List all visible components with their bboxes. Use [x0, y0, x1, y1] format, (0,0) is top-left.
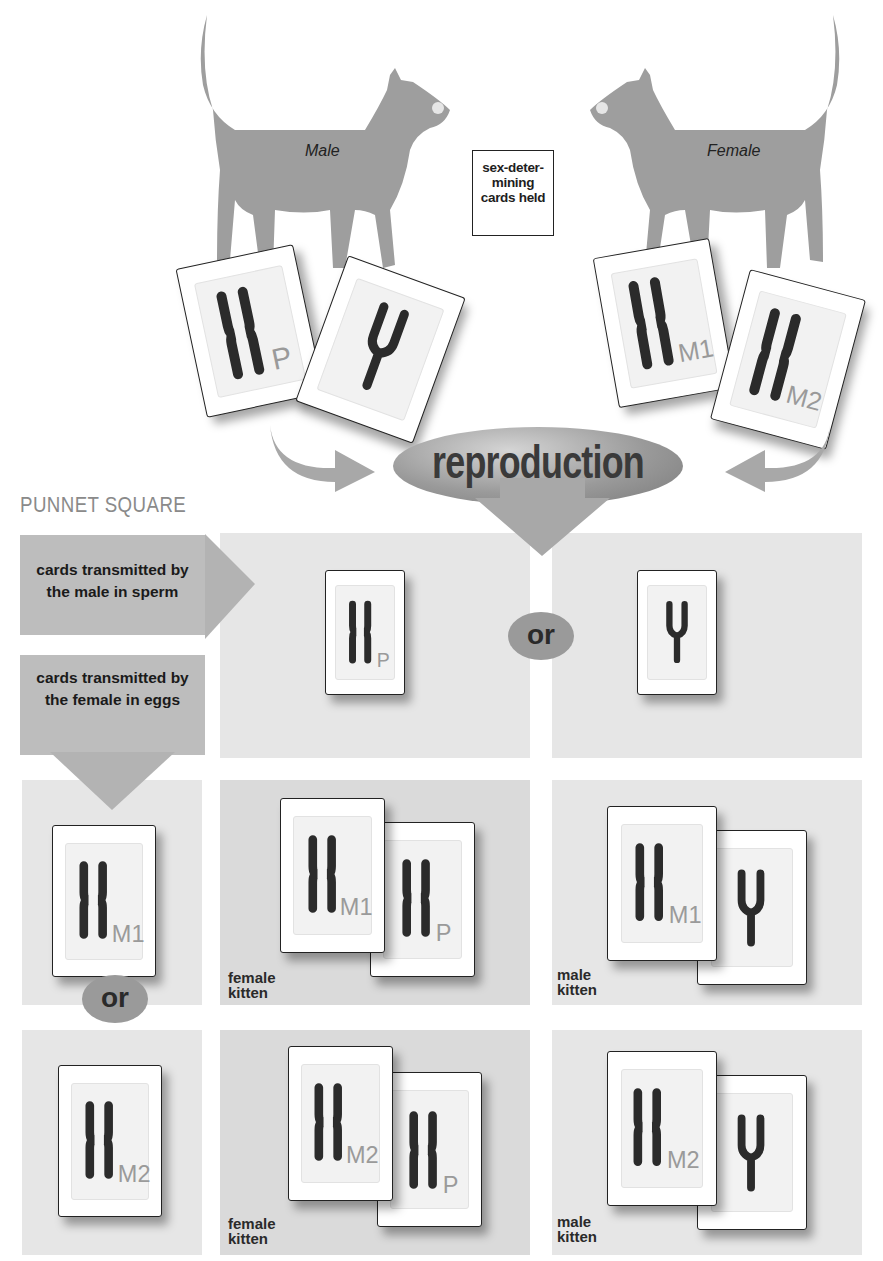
card-col-xp: P — [325, 570, 405, 695]
label-line: female — [228, 1216, 276, 1231]
card-col-y — [637, 570, 717, 695]
male-transmission-label: cards transmitted by the male in sperm — [20, 535, 205, 635]
svg-text:P: P — [269, 340, 295, 376]
kitten-label-1-1: male kitten — [557, 1214, 597, 1244]
male-label: Male — [305, 142, 340, 160]
svg-text:M1: M1 — [669, 902, 702, 928]
label-line: cards transmitted by — [20, 559, 205, 581]
legend-line: cards held — [473, 190, 553, 205]
card-result-0-1-xm1: M1 — [607, 806, 717, 961]
label-line: male — [557, 967, 597, 982]
arrow-male-icon — [265, 420, 395, 500]
svg-text:M1: M1 — [340, 894, 373, 920]
card-result-1-0-xm2: M2 — [288, 1046, 393, 1201]
kitten-label-1-0: female kitten — [228, 1216, 276, 1246]
svg-text:P: P — [436, 920, 452, 946]
legend-sex-determining-cards: sex-deter- mining cards held — [472, 150, 554, 236]
card-row-xm1: M1 — [52, 825, 156, 977]
svg-text:M1: M1 — [676, 333, 716, 367]
label-line: the male in sperm — [20, 581, 205, 603]
svg-text:M2: M2 — [346, 1142, 379, 1168]
card-row-xm2: M2 — [58, 1065, 162, 1217]
label-line: kitten — [228, 985, 276, 1000]
kitten-label-0-0: female kitten — [228, 970, 276, 1000]
legend-line: sex-deter- — [473, 160, 553, 175]
arrow-down-left-icon — [50, 752, 180, 812]
label-line: cards transmitted by — [20, 667, 205, 689]
svg-text:M2: M2 — [667, 1147, 700, 1173]
svg-text:M2: M2 — [783, 380, 825, 416]
legend-line: mining — [473, 175, 553, 190]
svg-text:P: P — [443, 1172, 459, 1198]
or-oval-columns: or — [508, 612, 574, 660]
label-line: the female in eggs — [20, 689, 205, 711]
label-line: male — [557, 1214, 597, 1229]
card-result-1-1-xm2: M2 — [607, 1051, 717, 1206]
svg-text:M1: M1 — [112, 921, 145, 947]
label-line: kitten — [228, 1231, 276, 1246]
or-oval-rows: or — [82, 975, 148, 1023]
arrow-right-icon — [200, 534, 260, 644]
female-transmission-label: cards transmitted by the female in eggs — [20, 655, 205, 755]
label-line: kitten — [557, 1229, 597, 1244]
label-line: kitten — [557, 982, 597, 997]
arrow-down-icon — [470, 478, 615, 558]
female-label: Female — [707, 142, 760, 160]
card-result-0-0-xp: P — [370, 822, 475, 977]
card-male-y — [295, 255, 465, 443]
label-line: female — [228, 970, 276, 985]
kitten-label-0-1: male kitten — [557, 967, 597, 997]
punnett-title: PUNNET SQUARE — [20, 492, 186, 518]
svg-text:M2: M2 — [118, 1161, 151, 1187]
arrow-female-icon — [705, 420, 835, 500]
svg-text:P: P — [377, 649, 390, 671]
card-result-0-0-xm1: M1 — [280, 798, 385, 953]
